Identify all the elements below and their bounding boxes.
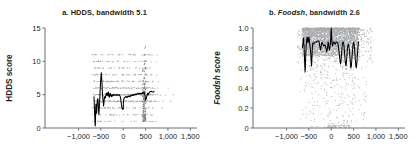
y-axis-title: HDDS score	[5, 54, 14, 102]
y-axis-title: Foodsh score	[213, 51, 222, 105]
y-tick-label: 10	[32, 57, 40, 66]
x-tick-label: −1,000	[67, 132, 90, 141]
y-tick-label: 0	[244, 124, 248, 133]
x-tick-label: 0	[121, 132, 125, 141]
y-tick-label: 1.0	[238, 24, 248, 33]
x-tick-label: 500	[347, 132, 359, 141]
x-tick-label: −500	[93, 132, 110, 141]
y-tick-label: 0.8	[238, 44, 248, 53]
panel-b-foodsh: b. Foodsh, bandwidth 2.6 00.20.40.60.81.…	[210, 0, 419, 153]
panel-a-plot: 051015−1,000−50005001,0001,500HDDS score	[0, 0, 209, 153]
x-tick-label: −500	[301, 132, 318, 141]
figure-two-panel-rd-plots: a. HDDS, bandwidth 5.1 051015−1,000−5000…	[0, 0, 419, 153]
x-tick-label: −1,000	[275, 132, 298, 141]
x-tick-label: 500	[139, 132, 151, 141]
y-tick-label: 0	[36, 124, 40, 133]
x-tick-label: 1,000	[367, 132, 386, 141]
y-tick-label: 15	[32, 24, 40, 33]
y-tick-label: 0.2	[238, 104, 248, 113]
y-tick-label: 5	[36, 90, 40, 99]
y-tick-label: 0.6	[238, 64, 248, 73]
x-tick-label: 1,000	[159, 132, 178, 141]
x-tick-label: 1,500	[181, 132, 200, 141]
panel-a-hdds: a. HDDS, bandwidth 5.1 051015−1,000−5000…	[0, 0, 209, 153]
x-tick-label: 0	[329, 132, 333, 141]
panel-b-plot: 00.20.40.60.81.0−1,000−50005001,0001,500…	[210, 0, 419, 153]
x-tick-label: 1,500	[389, 132, 408, 141]
y-tick-label: 0.4	[238, 84, 248, 93]
